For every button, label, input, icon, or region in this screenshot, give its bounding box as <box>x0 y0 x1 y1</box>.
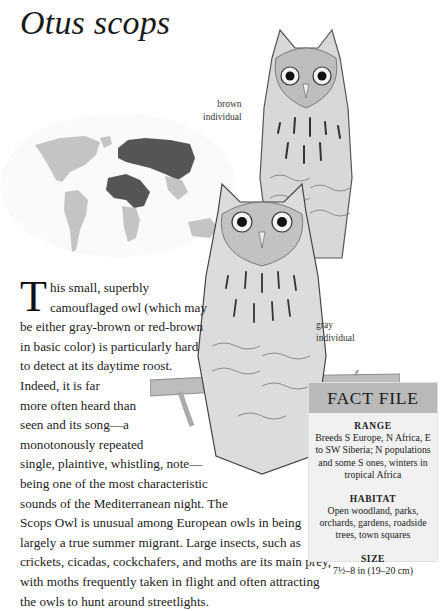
fact-label: HABITAT <box>313 493 433 505</box>
fact-file-box: FACT FILE RANGE Breeds S Europe, N Afric… <box>308 382 438 562</box>
fact-size: SIZE 7½–8 in (19–20 cm) <box>309 553 437 577</box>
brown-individual-caption: brown individual <box>203 98 242 124</box>
text-line: in basic color) is particularly hard <box>20 337 338 357</box>
species-description: T his small, superbly camouflaged owl (w… <box>20 278 338 611</box>
text-line: sounds of the Mediterranean night. The <box>20 494 338 514</box>
fact-text: Open woodland, parks, orchards, gardens,… <box>313 505 433 542</box>
drop-cap: T <box>20 279 47 315</box>
text-line: camouflaged owl (which may <box>20 298 338 318</box>
fact-label: SIZE <box>313 553 433 565</box>
fact-file-heading: FACT FILE <box>309 383 437 413</box>
text-line: be either gray-brown or red-brown <box>20 317 338 337</box>
fact-habitat: HABITAT Open woodland, parks, orchards, … <box>309 493 437 542</box>
text-line: crickets, cicadas, cockchafers, and moth… <box>20 552 338 572</box>
species-title: Otus scops <box>20 4 170 42</box>
text-line: with moths frequently taken in flight an… <box>20 572 338 592</box>
text-line: largely a true summer migrant. Large ins… <box>20 533 338 553</box>
text-line: the owls to hunt around streetlights. <box>20 592 338 611</box>
fact-label: RANGE <box>313 420 433 432</box>
text-line: being one of the most characteristic <box>20 474 338 494</box>
text-line: monotonously repeated <box>20 435 338 455</box>
caption-line: individual <box>203 111 242 124</box>
caption-line: brown <box>203 98 242 111</box>
fact-range: RANGE Breeds S Europe, N Africa, E to SW… <box>309 420 437 482</box>
text-line: Scops Owl is unusual among European owls… <box>20 513 338 533</box>
fact-text: 7½–8 in (19–20 cm) <box>313 565 433 577</box>
text-line: seen and its song—a <box>20 415 338 435</box>
fact-text: Breeds S Europe, N Africa, E to SW Siber… <box>313 432 433 482</box>
text-line: to detect at its daytime roost. <box>20 356 338 376</box>
text-line: single, plaintive, whistling, note— <box>20 454 338 474</box>
text-line: his small, superbly <box>20 278 338 298</box>
text-line: more often heard than <box>20 396 338 416</box>
text-line: Indeed, it is far <box>20 376 338 396</box>
